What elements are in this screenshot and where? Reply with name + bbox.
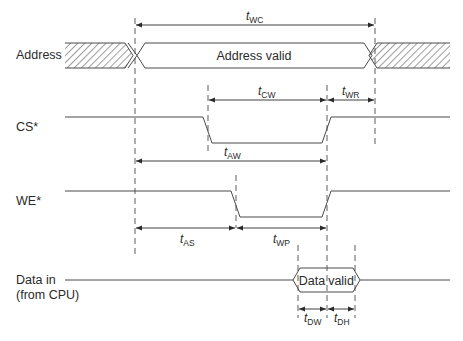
twp-label: tWP — [273, 232, 290, 248]
address-label: Address — [16, 48, 62, 62]
cs-label: CS* — [16, 120, 38, 134]
reference-lines — [135, 18, 375, 318]
data-signal — [65, 268, 450, 292]
tas-label: tAS — [180, 232, 195, 248]
cs-waveform — [65, 117, 450, 143]
data-valid-label-1: Data — [299, 274, 325, 288]
data-in-label: Data in — [16, 273, 56, 287]
data-valid-label-2: valid — [328, 274, 354, 288]
timing-diagram: Address Address valid CS* WE* Data in (f… — [0, 0, 463, 341]
twc-label: tWC — [246, 9, 264, 25]
tdh-label: tDH — [334, 311, 350, 327]
address-invalid-left — [65, 43, 133, 68]
address-valid-label: Address valid — [216, 49, 291, 63]
we-waveform — [65, 191, 450, 217]
twr-label: tWR — [342, 84, 360, 100]
address-invalid-right — [369, 43, 450, 68]
data-in-source-label: (from CPU) — [16, 288, 79, 302]
taw-label: tAW — [224, 145, 241, 161]
tcw-label: tCW — [258, 84, 276, 100]
tdw-label: tDW — [304, 311, 322, 327]
we-label: WE* — [16, 194, 41, 208]
